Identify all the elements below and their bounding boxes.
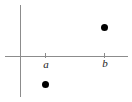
y-axis-line (20, 5, 21, 97)
x-tick-label-a: a (39, 59, 53, 70)
scatter-figure: a b (0, 0, 132, 102)
data-point-upper (101, 24, 108, 31)
data-point-lower (42, 81, 49, 88)
x-tick-label-b: b (98, 58, 112, 69)
